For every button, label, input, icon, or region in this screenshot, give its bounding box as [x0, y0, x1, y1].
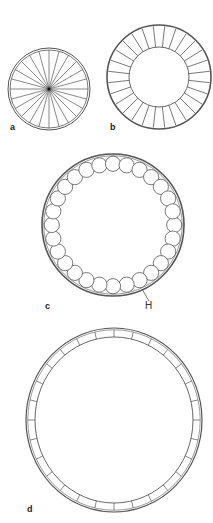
panel-b-segmented-ring: [107, 25, 211, 129]
figure-canvas: [0, 0, 213, 523]
panel-label-d: d: [27, 505, 33, 514]
panel-d-thin-segmented-ring: [26, 328, 202, 512]
annotation-h: H: [145, 301, 152, 311]
panel-label-c: c: [45, 302, 50, 311]
panel-label-a: a: [10, 123, 15, 132]
panel-label-b: b: [110, 123, 116, 132]
panel-a-spoked-wheel: [8, 48, 90, 130]
panel-c-ring-of-circles: [42, 154, 184, 301]
